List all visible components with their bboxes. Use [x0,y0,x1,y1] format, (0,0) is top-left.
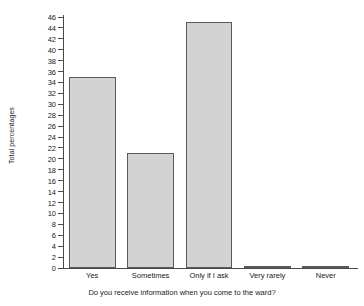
y-axis-tick [58,82,64,83]
y-axis-tick [58,17,64,18]
y-axis-tick [58,191,64,192]
y-axis-tick-label: 42 [16,35,56,43]
y-axis-tick-label: 38 [16,57,56,65]
y-axis-tick-label: 20 [16,155,56,163]
y-axis-tick [58,27,64,28]
y-axis-tick-label: 8 [16,221,56,229]
bar-only-if-i-ask [186,22,233,268]
bar-very-rarely [244,266,291,268]
y-axis-tick-label: 12 [16,199,56,207]
y-axis-tick-label: 40 [16,46,56,54]
y-axis-title-text: Total percentages [8,107,15,164]
y-axis-tick-label: 34 [16,79,56,87]
y-axis-tick-label: 26 [16,123,56,131]
y-axis-tick [58,137,64,138]
x-axis-tick-label: Yes [63,272,121,280]
y-axis-tick [58,268,64,269]
y-axis-tick-label: 22 [16,144,56,152]
y-axis-tick-label: 4 [16,243,56,251]
y-axis-tick-label: 24 [16,134,56,142]
bar-never [302,266,349,268]
x-axis-tick-label: Only if I ask [180,272,238,280]
y-axis-tick [58,235,64,236]
y-axis-tick [58,71,64,72]
x-axis-tick-label: Never [297,272,355,280]
y-axis-tick [58,104,64,105]
y-axis-tick [58,147,64,148]
bar-yes [69,77,116,268]
y-axis-tick [58,257,64,258]
y-axis-tick [58,93,64,94]
y-axis-tick [58,169,64,170]
y-axis-tick-label: 28 [16,112,56,120]
y-axis-tick-label: 10 [16,210,56,218]
y-axis-tick [58,38,64,39]
y-axis-tick [58,158,64,159]
y-axis-tick-label: 46 [16,14,56,22]
y-axis-tick [58,126,64,127]
y-axis-tick [58,202,64,203]
y-axis-tick-label: 18 [16,166,56,174]
x-axis-line [63,268,358,269]
y-axis-tick-label: 36 [16,68,56,76]
y-axis-line [63,15,64,269]
y-axis-tick-label: 30 [16,101,56,109]
x-axis-title: Do you receive information when you come… [0,288,364,297]
y-axis-tick-label: 2 [16,254,56,262]
y-axis-tick [58,246,64,247]
y-axis-tick-label: 16 [16,177,56,185]
y-axis-tick [58,213,64,214]
y-axis-tick [58,224,64,225]
y-axis-tick-label: 0 [16,265,56,273]
y-axis-tick [58,180,64,181]
y-axis-tick-label: 6 [16,232,56,240]
y-axis-tick [58,60,64,61]
x-axis-tick-label: Sometimes [121,272,179,280]
bar-chart: Total percentages 0246810121416182022242… [0,0,364,306]
y-axis-tick-label: 14 [16,188,56,196]
y-axis-tick [58,49,64,50]
y-axis-tick [58,115,64,116]
x-axis-tick-label: Very rarely [238,272,296,280]
bar-sometimes [127,153,174,268]
y-axis-tick-label: 32 [16,90,56,98]
y-axis-tick-label: 44 [16,24,56,32]
